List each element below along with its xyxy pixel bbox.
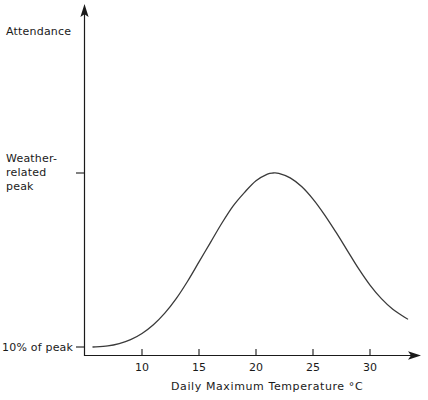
- y-tick-label-base: 10% of peak: [2, 341, 73, 354]
- x-tick-label-30: 30: [363, 361, 377, 374]
- attendance-curve: [93, 173, 408, 347]
- x-tick-label-10: 10: [135, 361, 149, 374]
- attendance-temperature-chart: Attendance Weather-related peak 10% of p…: [0, 0, 428, 400]
- y-axis-title: Attendance: [6, 25, 71, 38]
- x-axis: [85, 349, 422, 360]
- y-tick-label-peak: Weather-related peak: [6, 152, 72, 194]
- x-axis-title: Daily Maximum Temperature °C: [171, 380, 363, 393]
- x-tick-label-25: 25: [306, 361, 320, 374]
- x-tick-label-15: 15: [192, 361, 206, 374]
- x-tick-label-20: 20: [249, 361, 263, 374]
- y-axis: [76, 4, 89, 356]
- chart-plot-area: [0, 0, 428, 400]
